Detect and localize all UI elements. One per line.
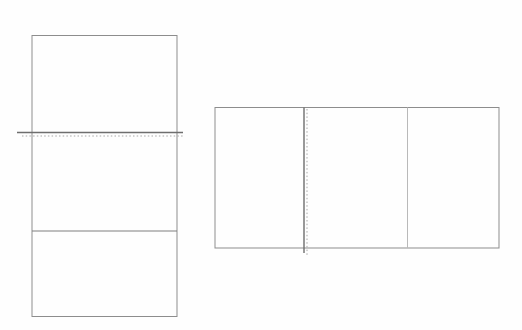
trifold-diagram xyxy=(0,0,522,330)
horizontal-trifold-outline xyxy=(215,108,499,249)
vertical-trifold xyxy=(17,36,183,317)
diagram-canvas xyxy=(0,0,522,330)
horizontal-trifold xyxy=(215,108,499,258)
vertical-trifold-outline xyxy=(32,36,177,317)
